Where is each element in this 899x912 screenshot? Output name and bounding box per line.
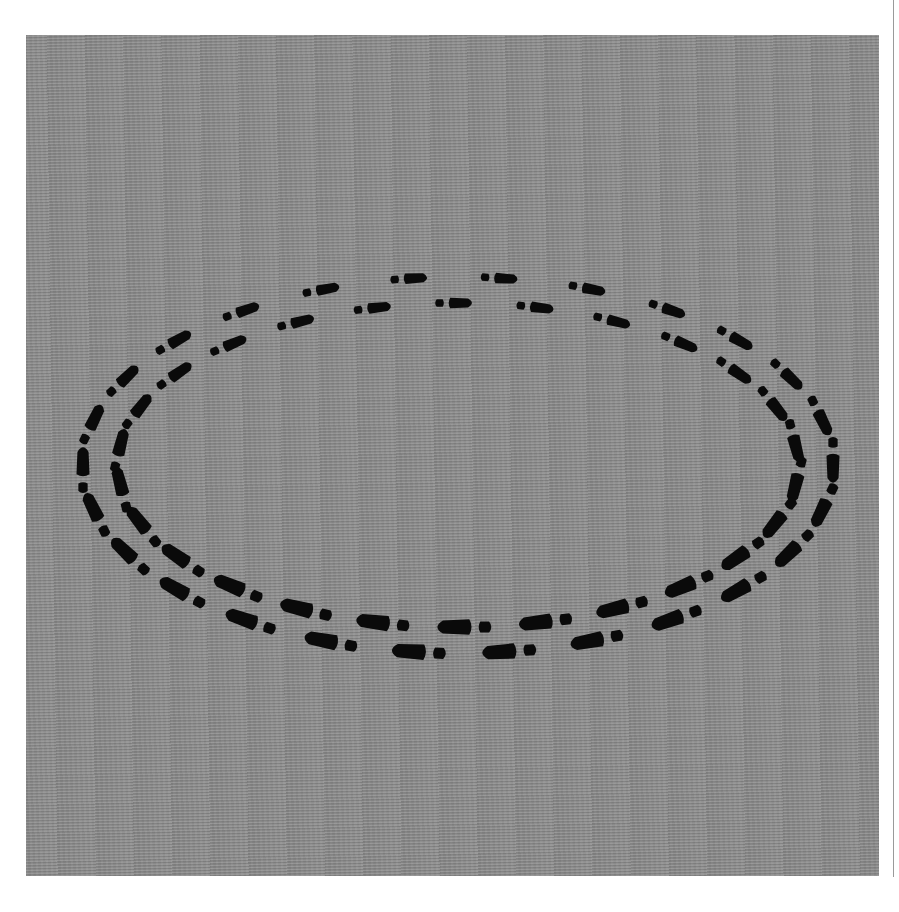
footprint xyxy=(302,281,341,298)
footprint xyxy=(211,572,265,606)
footprint xyxy=(568,280,607,297)
sole-print xyxy=(727,331,754,353)
heel-print xyxy=(78,433,90,446)
footprint xyxy=(76,447,89,493)
sole-print xyxy=(223,606,259,631)
sole-print xyxy=(367,301,392,314)
sole-print xyxy=(718,544,752,574)
heel-print xyxy=(559,613,573,625)
footprint xyxy=(208,333,248,358)
sole-print xyxy=(315,281,340,296)
sole-print xyxy=(569,631,605,652)
heel-print xyxy=(516,301,526,310)
heel-print xyxy=(121,417,134,430)
heel-print xyxy=(390,276,399,284)
footprint xyxy=(80,490,113,539)
sole-print xyxy=(812,408,835,438)
heel-print xyxy=(97,524,111,538)
page-edge-divider xyxy=(893,0,894,877)
sole-print xyxy=(76,447,89,476)
footprint xyxy=(647,297,687,320)
sole-print xyxy=(80,490,105,523)
footprint xyxy=(805,394,835,438)
sole-print xyxy=(494,273,518,285)
footprint xyxy=(107,534,153,578)
footprint xyxy=(826,437,839,483)
heel-print xyxy=(148,534,163,549)
heel-print xyxy=(433,647,446,659)
footprint xyxy=(662,567,716,601)
heel-print xyxy=(105,385,118,398)
footprint xyxy=(223,606,277,637)
footprint xyxy=(108,427,131,473)
heel-print xyxy=(648,299,659,309)
footprint xyxy=(516,300,554,315)
footprint xyxy=(785,455,809,503)
heel-print xyxy=(634,595,649,609)
sole-print xyxy=(107,534,139,566)
footprint xyxy=(592,311,631,331)
footprint xyxy=(157,574,209,612)
sole-print xyxy=(765,396,791,424)
heel-print xyxy=(249,589,264,604)
sole-print xyxy=(157,574,192,603)
sole-print xyxy=(771,539,803,571)
heel-print xyxy=(396,619,410,631)
footprint xyxy=(715,323,755,352)
sole-print xyxy=(112,427,131,457)
heel-print xyxy=(136,562,151,577)
heel-print xyxy=(800,528,815,543)
sole-print xyxy=(391,643,426,660)
sole-print xyxy=(726,362,754,386)
sole-print xyxy=(167,359,195,383)
footprint xyxy=(391,643,446,662)
heel-print xyxy=(753,570,769,585)
sole-print xyxy=(581,282,606,297)
heel-print xyxy=(276,321,286,331)
sole-print xyxy=(289,313,315,329)
heel-print xyxy=(435,299,444,307)
footprint xyxy=(154,359,194,392)
footprint-loop xyxy=(26,35,879,876)
footprint xyxy=(518,611,573,632)
heel-print xyxy=(209,346,220,357)
heel-print xyxy=(191,564,206,579)
heel-print xyxy=(826,482,840,496)
footprint xyxy=(783,418,806,464)
footprint xyxy=(158,540,207,580)
footprint xyxy=(77,402,107,446)
heel-print xyxy=(154,344,166,356)
footprint xyxy=(714,354,754,387)
sole-print xyxy=(278,596,314,619)
sole-print xyxy=(166,328,193,350)
sole-print xyxy=(826,454,839,483)
heel-print xyxy=(828,437,837,448)
footprint xyxy=(659,329,699,354)
sole-print xyxy=(785,472,805,504)
sole-print xyxy=(808,497,833,530)
sole-print xyxy=(595,598,631,621)
footprint xyxy=(104,362,142,399)
heel-print xyxy=(751,535,766,550)
heel-print xyxy=(262,621,277,635)
heel-print xyxy=(700,569,715,584)
heel-print xyxy=(688,604,703,618)
sole-print xyxy=(518,613,553,632)
footprint xyxy=(119,391,155,432)
sole-print xyxy=(759,509,789,542)
footprint xyxy=(768,356,806,393)
heel-print xyxy=(481,273,490,281)
heel-print xyxy=(756,385,769,398)
sole-print xyxy=(779,366,806,392)
footprint xyxy=(390,272,427,285)
sole-print xyxy=(529,301,554,314)
heel-print xyxy=(660,331,671,342)
heel-print xyxy=(806,394,818,407)
sole-print xyxy=(437,619,471,634)
footprint xyxy=(480,272,517,285)
footprint xyxy=(771,526,817,570)
heel-print xyxy=(302,288,312,297)
heel-print xyxy=(715,355,728,367)
heel-print xyxy=(78,482,87,493)
heel-print xyxy=(344,639,358,652)
